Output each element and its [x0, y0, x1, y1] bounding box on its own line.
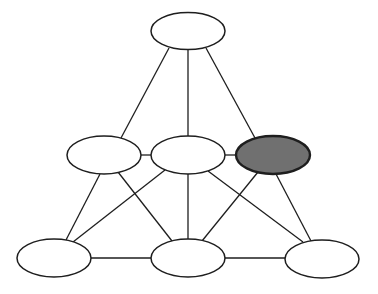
network-diagram — [0, 0, 378, 294]
node-top — [151, 13, 225, 50]
edge-top-to-middle-right — [206, 48, 255, 138]
edge-middle-left-to-bottom-left — [66, 174, 100, 240]
edge-middle-center-to-bottom-left — [73, 170, 165, 242]
edge-middle-right-to-bottom-right — [276, 174, 311, 241]
node-bottom-center — [151, 239, 225, 277]
edge-middle-right-to-bottom-center — [202, 172, 258, 241]
node-bottom-right — [285, 240, 359, 278]
node-middle-center — [151, 136, 225, 174]
edge-middle-left-to-bottom-center — [118, 172, 172, 241]
edge-middle-center-to-bottom-right — [208, 171, 303, 242]
edge-top-to-middle-left — [121, 48, 169, 138]
node-middle-left — [67, 136, 141, 174]
node-bottom-left — [17, 239, 91, 277]
node-middle-right-highlighted — [236, 136, 310, 174]
